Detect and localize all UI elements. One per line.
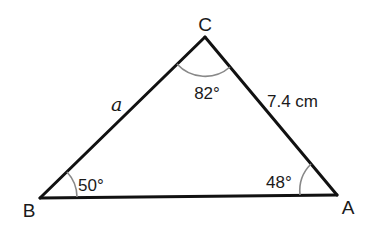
side-ca: [205, 37, 337, 195]
angle-arc-b: [67, 172, 77, 197]
vertex-label-b: B: [23, 200, 36, 221]
side-label-ca: 7.4 cm: [267, 92, 318, 111]
side-ba: [40, 195, 337, 198]
vertex-label-c: C: [198, 14, 212, 35]
side-label-a: a: [111, 93, 122, 115]
angle-label-b: 50°: [78, 176, 104, 195]
angle-label-c: 82°: [194, 84, 220, 103]
triangle-diagram: C B A 82° 50° 48° a 7.4 cm: [0, 0, 374, 226]
angle-label-a: 48°: [266, 173, 292, 192]
angle-arc-c: [177, 64, 230, 76]
angle-arc-a: [300, 164, 311, 195]
vertex-label-a: A: [342, 197, 355, 218]
side-bc: [40, 37, 205, 198]
